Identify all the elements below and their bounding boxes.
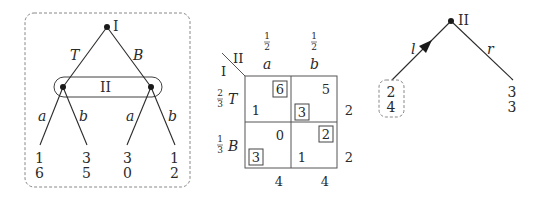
- row-prob-T: 2 3: [217, 88, 223, 109]
- reduced-root-node: [448, 18, 454, 24]
- action-label-B: B: [132, 47, 143, 63]
- payoff-p2: 5: [82, 165, 91, 181]
- action-label-b-right: b: [168, 108, 177, 124]
- row-action-B: B: [227, 138, 238, 154]
- row-action-T: T: [228, 91, 239, 107]
- svg-text:3: 3: [217, 99, 223, 109]
- payoff-p2: 0: [123, 165, 132, 181]
- node-II-right: [148, 84, 154, 90]
- svg-text:3: 3: [217, 145, 223, 155]
- reduced-player-label: II: [458, 12, 469, 28]
- col-expected-b: 4: [321, 174, 329, 189]
- row-prob-B: 1 3: [217, 134, 223, 155]
- svg-text:1: 1: [311, 31, 317, 41]
- row-expected-B: 2: [345, 150, 353, 165]
- cell-Tb-p2: 5: [322, 82, 330, 97]
- row-player-label: I: [221, 64, 226, 79]
- cell-Bb-p2: 2: [322, 127, 330, 142]
- cell-Ba-p1: 3: [252, 150, 260, 165]
- leaf-payoffs: 1 6 3 5 3 0 1 2: [35, 150, 179, 181]
- svg-text:1: 1: [264, 31, 270, 41]
- reduced-payoff-l-p1: 2: [387, 84, 396, 100]
- branch-l: [392, 21, 451, 80]
- payoff-p2: 2: [170, 165, 179, 181]
- payoff-p1: 3: [82, 150, 91, 166]
- cell-Ba-p2: 0: [276, 128, 284, 143]
- extensive-game: I T B II a b a b 1 6 3 5 3 0 1 2: [25, 13, 190, 187]
- payoff-p2: 6: [35, 165, 44, 181]
- svg-text:2: 2: [217, 88, 223, 98]
- cell-Tb-p1: 3: [298, 105, 306, 120]
- action-label-b-left: b: [79, 108, 88, 124]
- info-set-player-label: II: [100, 79, 111, 95]
- game-diagram: I T B II a b a b 1 6 3 5 3 0 1 2 II I 1 …: [0, 0, 539, 200]
- action-label-a-right: a: [126, 108, 134, 124]
- cell-Bb-p1: 1: [298, 150, 306, 165]
- action-label-l: l: [411, 41, 415, 57]
- col-prob-b: 1 2: [311, 31, 317, 52]
- col-action-b: b: [310, 56, 319, 72]
- reduced-payoff-r-p1: 3: [508, 84, 517, 100]
- col-player-label: II: [233, 51, 243, 66]
- node-II-left: [60, 84, 66, 90]
- reduced-payoff-r-p2: 3: [508, 99, 517, 115]
- payoff-p1: 1: [35, 150, 44, 166]
- cell-Ta-p1: 1: [252, 103, 260, 118]
- payoff-p1: 3: [123, 150, 132, 166]
- svg-text:1: 1: [217, 134, 223, 144]
- action-label-a-left: a: [38, 108, 46, 124]
- root-player-label: I: [113, 18, 119, 34]
- col-prob-a: 1 2: [264, 31, 270, 52]
- payoff-p1: 1: [170, 150, 179, 166]
- row-expected-T: 2: [345, 103, 353, 118]
- action-label-T: T: [70, 47, 81, 63]
- col-action-a: a: [263, 56, 271, 72]
- branch-B: [107, 27, 151, 87]
- root-node: [104, 24, 110, 30]
- branch-r: [451, 21, 513, 80]
- svg-text:2: 2: [311, 42, 317, 52]
- col-expected-a: 4: [275, 174, 283, 189]
- reduced-game: II l r 2 4 3 3: [379, 12, 516, 117]
- extensive-game-frame: [25, 13, 190, 187]
- svg-text:2: 2: [264, 42, 270, 52]
- matrix-game: II I 1 2 1 2 a b 2 3 1 3 T B: [217, 31, 353, 189]
- cell-Ta-p2: 6: [276, 82, 284, 97]
- reduced-payoff-l-p2: 4: [387, 99, 396, 115]
- action-label-r: r: [487, 41, 495, 57]
